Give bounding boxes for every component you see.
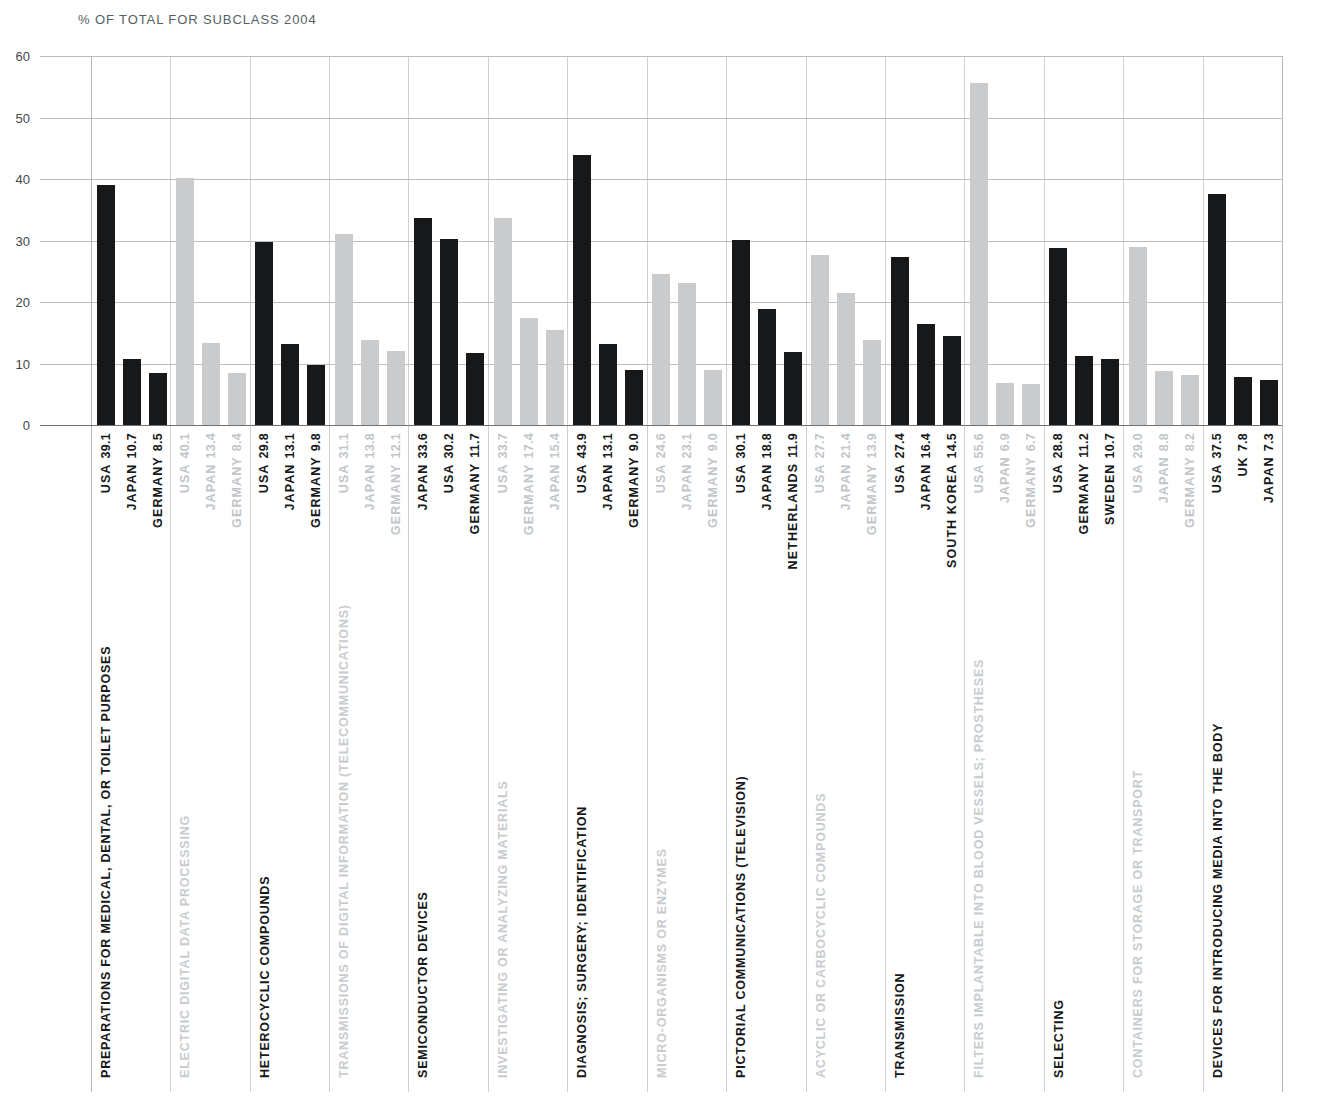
- bar[interactable]: [917, 324, 935, 425]
- y-axis-tick-50: 50: [16, 110, 30, 125]
- category-label: ACYCLIC OR CARBOCYCLIC COMPOUNDS: [806, 578, 885, 1078]
- category-label: ELECTRIC DIGITAL DATA PROCESSING: [170, 578, 249, 1078]
- bar-value-labels: USA27.7JAPAN21.4GERMANY13.9: [806, 425, 885, 595]
- bar-value-labels: USA37.5UK7.8JAPAN7.3: [1203, 425, 1282, 595]
- bar[interactable]: [520, 318, 538, 425]
- bar[interactable]: [1101, 359, 1119, 425]
- bar[interactable]: [149, 373, 167, 425]
- bar[interactable]: [758, 309, 776, 425]
- bar[interactable]: [466, 353, 484, 425]
- bar-group: USA27.4JAPAN16.4SOUTH KOREA14.5TRANSMISS…: [885, 56, 964, 1092]
- bar-value: 9.8: [309, 433, 323, 451]
- bar[interactable]: [361, 340, 379, 425]
- chart-title: % OF TOTAL FOR SUBCLASS 2004: [78, 12, 317, 27]
- bar-value: 6.9: [998, 433, 1012, 451]
- bar-value: 8.5: [151, 433, 165, 451]
- bar[interactable]: [573, 155, 591, 425]
- bar-group: USA24.6JAPAN23.1GERMANY9.0MICRO-ORGANISM…: [647, 56, 726, 1092]
- bar-country-name: USA: [1210, 464, 1224, 494]
- bar[interactable]: [678, 283, 696, 425]
- bar-label: JAPAN18.8: [758, 433, 776, 593]
- bar[interactable]: [625, 370, 643, 425]
- bar[interactable]: [599, 344, 617, 425]
- bar-value: 31.1: [337, 433, 351, 459]
- bar[interactable]: [1155, 371, 1173, 425]
- bar[interactable]: [228, 373, 246, 425]
- bar[interactable]: [1208, 194, 1226, 425]
- bar[interactable]: [704, 370, 722, 425]
- bar-label: GERMANY6.7: [1022, 433, 1040, 593]
- bar-label: GERMANY11.2: [1075, 433, 1093, 593]
- bar[interactable]: [863, 340, 881, 425]
- bar-value: 28.8: [1051, 433, 1065, 459]
- bar[interactable]: [387, 351, 405, 425]
- bar-value: 8.2: [1183, 433, 1197, 451]
- bar[interactable]: [307, 365, 325, 425]
- bar[interactable]: [123, 359, 141, 425]
- bar-value: 24.6: [654, 433, 668, 459]
- bar[interactable]: [440, 239, 458, 425]
- bar-label: GERMANY9.0: [625, 433, 643, 593]
- bar[interactable]: [1049, 248, 1067, 425]
- bar-country-name: SWEDEN: [1103, 464, 1117, 525]
- bar-value-labels: USA29.8JAPAN13.1GERMANY9.8: [250, 425, 329, 595]
- bar[interactable]: [1022, 384, 1040, 425]
- bar-value-labels: USA29.0JAPAN8.8GERMANY8.2: [1123, 425, 1202, 595]
- bar[interactable]: [546, 330, 564, 425]
- bar-label: UK7.8: [1234, 433, 1252, 593]
- bar[interactable]: [494, 218, 512, 425]
- bar-value: 6.7: [1024, 433, 1038, 451]
- bars-container: [170, 56, 249, 425]
- bar-country-name: SOUTH KOREA: [945, 464, 959, 568]
- bar-label: GERMANY9.0: [704, 433, 722, 593]
- bar-label: JAPAN16.4: [917, 433, 935, 593]
- bar-country-name: USA: [654, 464, 668, 494]
- bar[interactable]: [176, 178, 194, 425]
- bar-value-labels: USA28.8GERMANY11.2SWEDEN10.7: [1044, 425, 1123, 595]
- bar-group: USA29.8JAPAN13.1GERMANY9.8HETEROCYCLIC C…: [250, 56, 329, 1092]
- bar-value: 27.7: [813, 433, 827, 459]
- category-label: DIAGNOSIS; SURGERY; IDENTIFICATION: [567, 578, 646, 1078]
- category-label-text: ELECTRIC DIGITAL DATA PROCESSING: [178, 815, 192, 1078]
- bar-label: USA55.6: [970, 433, 988, 593]
- bar[interactable]: [837, 293, 855, 425]
- bar-value: 39.1: [99, 433, 113, 459]
- bar[interactable]: [811, 255, 829, 425]
- bar-country-name: JAPAN: [680, 464, 694, 511]
- bar[interactable]: [943, 336, 961, 425]
- bar-label: USA30.1: [732, 433, 750, 593]
- bar-value: 10.7: [1103, 433, 1117, 459]
- bar[interactable]: [1181, 375, 1199, 425]
- bar[interactable]: [414, 218, 432, 425]
- bar[interactable]: [1260, 380, 1278, 425]
- bar[interactable]: [202, 343, 220, 425]
- bar-country-name: UK: [1236, 456, 1250, 476]
- bar-label: USA39.1: [97, 433, 115, 593]
- bar[interactable]: [335, 234, 353, 425]
- category-label-text: MICRO-ORGANISMS OR ENZYMES: [655, 848, 669, 1078]
- bar[interactable]: [970, 83, 988, 425]
- category-label: INVESTIGATING OR ANALYZING MATERIALS: [488, 578, 567, 1078]
- bar[interactable]: [1075, 356, 1093, 425]
- bar[interactable]: [281, 344, 299, 425]
- bar[interactable]: [996, 383, 1014, 425]
- bar-country-name: JAPAN: [998, 456, 1012, 503]
- bar-label: USA27.7: [811, 433, 829, 593]
- bar[interactable]: [1129, 247, 1147, 425]
- bar-label: JAPAN13.1: [599, 433, 617, 593]
- bar-value: 40.1: [178, 433, 192, 459]
- bar-label: JAPAN8.8: [1155, 433, 1173, 593]
- category-label-text: TRANSMISSIONS OF DIGITAL INFORMATION (TE…: [337, 604, 351, 1078]
- bar[interactable]: [652, 274, 670, 425]
- bar[interactable]: [97, 185, 115, 425]
- bar[interactable]: [732, 240, 750, 425]
- bar-group: USA27.7JAPAN21.4GERMANY13.9ACYCLIC OR CA…: [806, 56, 885, 1092]
- bar-value-labels: USA31.1JAPAN13.8GERMANY12.1: [329, 425, 408, 595]
- bar[interactable]: [255, 242, 273, 425]
- bar[interactable]: [784, 352, 802, 425]
- bar[interactable]: [1234, 377, 1252, 425]
- bar[interactable]: [891, 257, 909, 426]
- bar-country-name: GERMANY: [1077, 463, 1091, 535]
- bars-container: [726, 56, 805, 425]
- bar-value-labels: JAPAN33.6USA30.2GERMANY11.7: [408, 425, 487, 595]
